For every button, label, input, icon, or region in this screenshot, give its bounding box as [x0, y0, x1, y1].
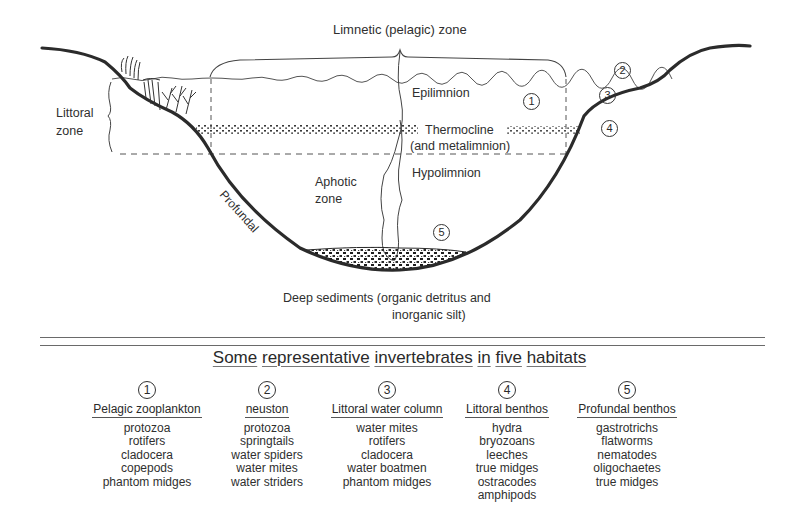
title-word: habitats — [527, 348, 587, 367]
habitat-name: Profundal benthos — [577, 401, 676, 418]
table-title: Some representative invertebrates in fiv… — [0, 348, 799, 368]
organism-list: water mites rotifers cladocera water boa… — [322, 422, 452, 489]
sediments-label-2: inorganic silt) — [392, 308, 466, 323]
title-word: Some — [213, 348, 257, 367]
organism-item: bryozoans — [442, 435, 572, 448]
habitat-column-1: 1 Pelagic zooplankton protozoa rotifers … — [82, 380, 212, 489]
lake-cross-section: Profundal — [0, 0, 799, 340]
habitat-marker-4: 4 — [601, 120, 618, 137]
habitat-column-3: 3 Littoral water column water mites roti… — [322, 380, 452, 489]
organism-item: nematodes — [562, 449, 692, 462]
thermocline-band-left — [196, 125, 418, 135]
organism-item: water spiders — [202, 449, 332, 462]
organism-list: hydra bryozoans leeches true midges ostr… — [442, 422, 572, 502]
organism-item: water mites — [322, 422, 452, 435]
organism-item: protozoa — [202, 422, 332, 435]
aphotic-zone-label-2: zone — [315, 192, 342, 207]
organism-item: protozoa — [82, 422, 212, 435]
epilimnion-label: Epilimnion — [412, 86, 470, 101]
habitat-marker-1: 1 — [523, 93, 540, 110]
habitat-name: Littoral benthos — [465, 401, 549, 418]
organism-list: gastrotrichs flatworms nematodes oligoch… — [562, 422, 692, 489]
habitat-marker-5: 5 — [433, 224, 450, 241]
organism-item: phantom midges — [82, 476, 212, 489]
limnetic-zone-label: Limnetic (pelagic) zone — [333, 22, 467, 37]
limnetic-bracket — [210, 50, 566, 77]
habitat-number-badge: 3 — [378, 381, 396, 399]
water-surface — [112, 67, 672, 89]
organism-item: ostracodes — [442, 476, 572, 489]
organism-item: cladocera — [322, 449, 452, 462]
sediments-label-1: Deep sediments (organic detritus and — [283, 291, 491, 306]
title-word: representative — [262, 348, 370, 367]
littoral-brace — [108, 82, 112, 152]
organism-item: hydra — [442, 422, 572, 435]
metalimnion-label: (and metalimnion) — [410, 139, 510, 154]
hypolimnion-label: Hypolimnion — [412, 166, 481, 181]
littoral-zone-label-1: Littoral — [56, 106, 94, 121]
habitat-number-badge: 5 — [618, 381, 636, 399]
habitat-marker-2: 2 — [614, 62, 631, 79]
littoral-zone-label-2: zone — [56, 124, 83, 139]
organism-list: protozoa rotifers cladocera copepods pha… — [82, 422, 212, 489]
title-word: invertebrates — [374, 348, 472, 367]
organism-item: amphipods — [442, 489, 572, 502]
habitat-column-4: 4 Littoral benthos hydra bryozoans leech… — [442, 380, 572, 502]
organism-item: rotifers — [82, 435, 212, 448]
organism-item: oligochaetes — [562, 462, 692, 475]
organism-item: true midges — [442, 462, 572, 475]
title-word: five — [495, 348, 521, 367]
organism-list: protozoa springtails water spiders water… — [202, 422, 332, 489]
organism-item: flatworms — [562, 435, 692, 448]
habitat-name: neuston — [245, 401, 290, 418]
organism-item: water striders — [202, 476, 332, 489]
organism-item: gastrotrichs — [562, 422, 692, 435]
organism-item: true midges — [562, 476, 692, 489]
deep-sediments — [306, 247, 466, 270]
habitat-column-2: 2 neuston protozoa springtails water spi… — [202, 380, 332, 489]
organism-item: cladocera — [82, 449, 212, 462]
habitat-column-5: 5 Profundal benthos gastrotrichs flatwor… — [562, 380, 692, 489]
divider-line-bottom — [40, 345, 765, 346]
habitat-marker-3: 3 — [599, 87, 616, 104]
title-word: in — [477, 348, 490, 367]
organism-item: copepods — [82, 462, 212, 475]
aphotic-zone-label-1: Aphotic — [315, 175, 357, 190]
habitat-number-badge: 4 — [498, 381, 516, 399]
organism-item: phantom midges — [322, 476, 452, 489]
habitat-name: Littoral water column — [331, 401, 444, 418]
thermocline-band-right — [506, 126, 580, 135]
organism-item: springtails — [202, 435, 332, 448]
habitat-number-badge: 1 — [138, 381, 156, 399]
thermocline-label: Thermocline — [425, 123, 494, 138]
organism-item: water mites — [202, 462, 332, 475]
organism-item: water boatmen — [322, 462, 452, 475]
divider-line-top — [40, 337, 765, 338]
organism-item: leeches — [442, 449, 572, 462]
organism-item: rotifers — [322, 435, 452, 448]
habitat-name: Pelagic zooplankton — [92, 401, 201, 418]
habitat-number-badge: 2 — [258, 381, 276, 399]
